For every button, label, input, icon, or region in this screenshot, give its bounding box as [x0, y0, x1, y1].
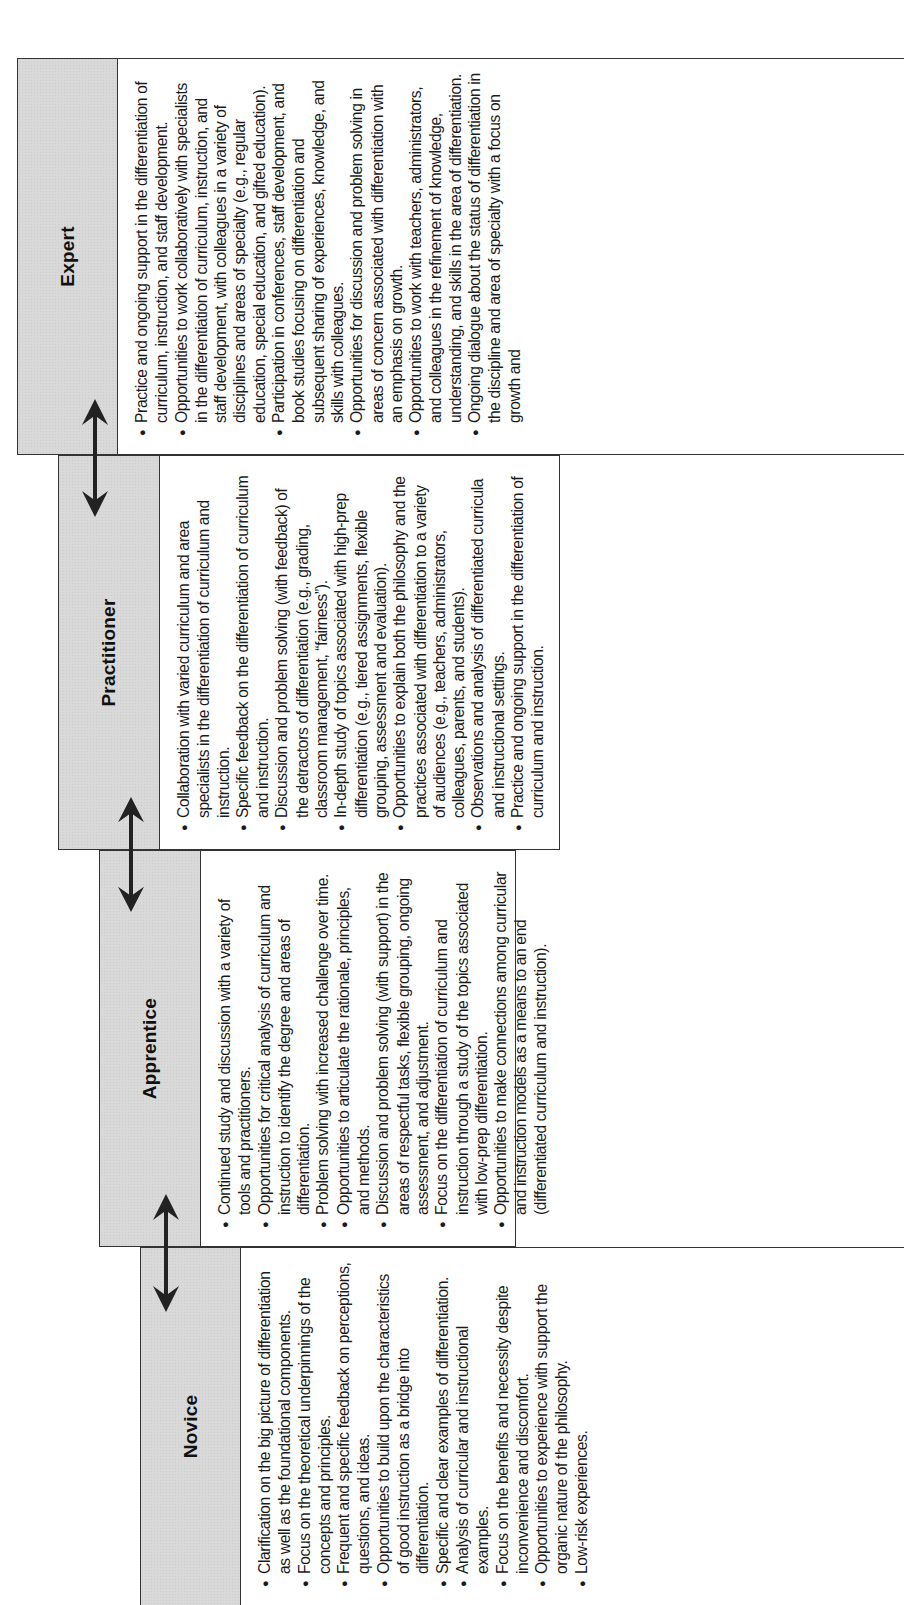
stage-body-practitioner: Collaboration with varied curriculum and… — [160, 455, 560, 850]
double-arrow-icon — [151, 1194, 181, 1312]
stage-title: Apprentice — [139, 998, 161, 1099]
list-item: Discussion and problem solving (with fee… — [272, 470, 331, 831]
list-item: Opportunities to experience with support… — [532, 1262, 572, 1587]
stage-title: Novice — [180, 1395, 202, 1459]
double-arrow-icon — [80, 399, 110, 517]
list-item: Opportunities to build upon the characte… — [374, 1262, 433, 1587]
stage-body-expert: Practice and ongoing support in the diff… — [118, 58, 904, 455]
stage-items-practitioner: Collaboration with varied curriculum and… — [174, 470, 548, 831]
list-item: Opportunities for discussion and problem… — [347, 73, 406, 436]
double-arrow-icon — [116, 797, 146, 912]
stage-items-apprentice: Continued study and discussion with a va… — [215, 865, 550, 1228]
stage-header-apprentice: Apprentice — [99, 850, 201, 1247]
list-item: Clarification on the big picture of diff… — [255, 1262, 295, 1587]
list-item: Specific and clear examples of different… — [433, 1262, 453, 1587]
list-item: Opportunities to make connections among … — [491, 865, 550, 1228]
list-item: Low-risk experiences. — [572, 1262, 592, 1587]
stage-panel-apprentice: Apprentice Continued study and discussio… — [99, 850, 904, 1247]
stage-items-novice: Clarification on the big picture of diff… — [255, 1262, 592, 1587]
stage-header-expert: Expert — [17, 58, 118, 455]
list-item: Opportunities to articulate the rational… — [334, 865, 374, 1228]
list-item: Collaboration with varied curriculum and… — [174, 470, 233, 831]
list-item: Continued study and discussion with a va… — [215, 865, 255, 1228]
list-item: Focus on the differentiation of curricul… — [432, 865, 491, 1228]
stage-body-apprentice: Continued study and discussion with a va… — [201, 850, 516, 1247]
stage-panel-practitioner: Practitioner Collaboration with varied c… — [58, 455, 904, 850]
list-item: Discussion and problem solving (with sup… — [373, 865, 432, 1228]
stage-title: Expert — [57, 226, 79, 286]
list-item: Opportunities to work with teachers, adm… — [406, 73, 465, 436]
list-item: Frequent and specific feedback on percep… — [334, 1262, 374, 1587]
list-item: Focus on the benefits and necessity desp… — [493, 1262, 533, 1587]
list-item: Ongoing dialogue about the status of dif… — [465, 73, 524, 436]
list-item: Opportunities to explain both the philos… — [390, 470, 468, 831]
list-item: Analysis of curricular and instructional… — [453, 1262, 493, 1587]
stage-items-expert: Practice and ongoing support in the diff… — [132, 73, 524, 436]
stage-title: Practitioner — [98, 599, 120, 707]
list-item: Focus on the theoretical underpinnings o… — [295, 1262, 335, 1587]
list-item: Observations and analysis of differentia… — [468, 470, 508, 831]
list-item: Specific feedback on the differentiation… — [233, 470, 273, 831]
list-item: Opportunities for critical analysis of c… — [255, 865, 314, 1228]
list-item: Opportunities to work collaboratively wi… — [172, 73, 269, 436]
list-item: In-depth study of topics associated with… — [331, 470, 390, 831]
list-item: Practice and ongoing support in the diff… — [508, 470, 548, 831]
list-item: Practice and ongoing support in the diff… — [132, 73, 172, 436]
staircase-diagram: Novice Clarification on the big picture … — [0, 0, 904, 1605]
list-item: Participation in conferences, staff deve… — [269, 73, 347, 436]
stage-body-novice: Clarification on the big picture of diff… — [241, 1247, 904, 1605]
stage-panel-expert: Expert Practice and ongoing support in t… — [17, 58, 904, 455]
list-item: Problem solving with increased challenge… — [313, 865, 333, 1228]
stage-panel-novice: Novice Clarification on the big picture … — [140, 1247, 904, 1605]
